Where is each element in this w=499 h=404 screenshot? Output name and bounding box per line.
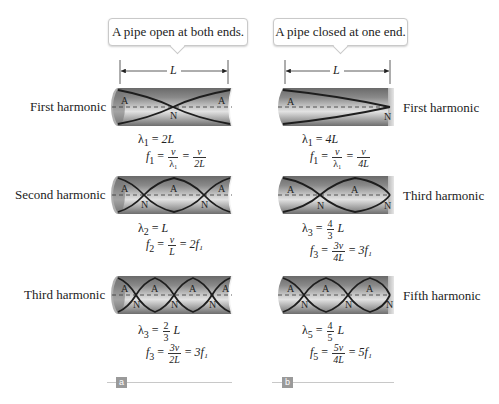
antinode-label: A <box>170 183 177 194</box>
frequency-formula-b2: f3 = 3v4L = 3f₁ <box>310 240 372 263</box>
node-label: N <box>384 200 391 211</box>
harmonic-label-b2: Third harmonic <box>403 188 484 204</box>
closed-pipe-fifth-harmonic <box>278 276 394 314</box>
node-label: N <box>170 110 177 121</box>
antinode-label: A <box>287 96 294 107</box>
antinode-label: A <box>222 283 229 294</box>
harmonic-label-a1: First harmonic <box>30 99 106 115</box>
closed-pipe-third-harmonic <box>278 176 394 214</box>
open-pipe-second-harmonic <box>111 176 232 214</box>
frequency-formula-a1: f1 = vλ₁ = v2L <box>146 146 207 169</box>
antinode-label: A <box>287 184 294 195</box>
antinode-label: A <box>189 283 196 294</box>
antinode-label: A <box>121 95 128 106</box>
antinode-label: A <box>121 283 128 294</box>
frequency-formula-b1: f1 = vλ₁ = v4L <box>310 146 371 169</box>
node-label: N <box>345 299 352 310</box>
length-label-b: L <box>333 63 340 78</box>
antinode-label: A <box>218 95 225 106</box>
antinode-label: A <box>287 283 294 294</box>
wavelength-formula-b2: λ3 = 43 L <box>302 218 344 241</box>
node-label: N <box>317 200 324 211</box>
harmonic-label-a3: Third harmonic <box>24 287 105 303</box>
node-label: N <box>133 299 140 310</box>
antinode-label: A <box>151 283 158 294</box>
frequency-formula-b3: f5 = 5v4L = 5f₁ <box>310 342 372 365</box>
frequency-formula-a3: f3 = 3v2L = 3f₁ <box>146 342 208 365</box>
frequency-formula-a2: f2 = vL = 2f₁ <box>146 234 203 257</box>
node-label: N <box>384 111 391 122</box>
node-label: N <box>301 299 308 310</box>
antinode-label: A <box>218 183 225 194</box>
wavelength-formula-a3: λ3 = 23 L <box>138 320 180 343</box>
closed-pipe-first-harmonic <box>278 88 394 126</box>
panel-a-marker: a <box>116 377 127 388</box>
harmonic-label-a2: Second harmonic <box>15 187 106 203</box>
harmonic-label-b1: First harmonic <box>403 100 479 116</box>
length-label-a: L <box>170 63 177 78</box>
node-label: N <box>386 299 393 310</box>
antinode-label: A <box>351 184 358 195</box>
node-label: N <box>209 299 216 310</box>
antinode-label: A <box>366 283 373 294</box>
node-label: N <box>141 199 148 210</box>
panel-b-marker: b <box>282 377 293 388</box>
antinode-label: A <box>322 283 329 294</box>
node-label: N <box>201 199 208 210</box>
wavelength-formula-b3: λ5 = 45 L <box>302 320 344 343</box>
harmonic-label-b3: Fifth harmonic <box>403 288 481 304</box>
antinode-label: A <box>121 183 128 194</box>
node-label: N <box>171 299 178 310</box>
